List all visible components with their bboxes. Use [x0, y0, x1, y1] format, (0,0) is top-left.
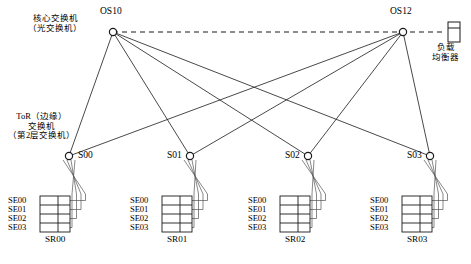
tor-switch-annotation-line3: （第2层交换机）	[8, 131, 75, 141]
load-balancer-icon	[448, 22, 460, 42]
switch-node-S02[interactable]	[304, 152, 311, 159]
core-switch-annotation-line2: （光交换机）	[28, 24, 82, 34]
switch-nodes	[65, 28, 433, 159]
link-OS12-S03	[403, 32, 430, 156]
network-topology-diagram: 核心交换机 （光交换机） ToR（边缘） 交换机 （第2层交换机） 负载 均衡器…	[0, 0, 471, 264]
tor-switch-label-S02: S02	[285, 150, 300, 161]
core-switch-annotation: 核心交换机 （光交换机）	[28, 14, 82, 33]
core-switch-label-OS12: OS12	[390, 6, 412, 17]
rack-label-SR00: SR00	[45, 234, 65, 244]
core-switch-label-OS10: OS10	[100, 6, 122, 17]
server-label-SR02-SE03: SE03	[248, 223, 266, 233]
switch-node-S03[interactable]	[426, 152, 433, 159]
tor-switch-label-S00: S00	[78, 150, 93, 161]
rack-label-SR02: SR02	[285, 234, 305, 244]
link-OS12-S02	[308, 32, 403, 156]
tor-switch-label-S01: S01	[167, 150, 182, 161]
core-interconnect-link	[113, 22, 460, 42]
link-OS10-S00	[69, 32, 113, 156]
rack-label-SR03: SR03	[407, 234, 427, 244]
load-balancer-label: 负载 均衡器	[432, 43, 459, 62]
rack-label-SR01: SR01	[167, 234, 187, 244]
link-OS12-S01	[190, 32, 403, 156]
core-to-tor-links	[69, 32, 430, 156]
server-label-SR00-SE03: SE03	[8, 223, 26, 233]
load-balancer-label-line2: 均衡器	[432, 53, 459, 63]
link-OS12-S00	[69, 32, 403, 156]
server-label-SR03-SE03: SE03	[370, 223, 388, 233]
switch-node-S01[interactable]	[186, 152, 193, 159]
tor-switch-annotation: ToR（边缘） 交换机 （第2层交换机）	[8, 112, 75, 141]
link-OS10-S03	[113, 32, 430, 156]
server-label-SR01-SE03: SE03	[130, 223, 148, 233]
tor-switch-label-S03: S03	[407, 150, 422, 161]
link-OS10-S01	[113, 32, 190, 156]
switch-node-OS12[interactable]	[399, 28, 406, 35]
switch-node-OS10[interactable]	[109, 28, 116, 35]
switch-node-S00[interactable]	[65, 152, 72, 159]
link-OS10-S02	[113, 32, 308, 156]
